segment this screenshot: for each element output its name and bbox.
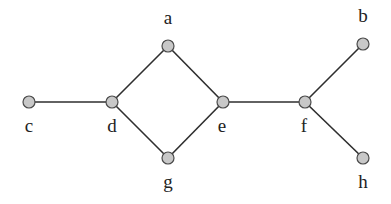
labels-layer: abcdefgh — [25, 5, 368, 192]
nodes-layer — [23, 38, 369, 164]
edge-f-h — [305, 102, 363, 158]
node-label-f: f — [301, 115, 308, 136]
node-g — [162, 152, 174, 164]
node-label-e: e — [218, 115, 226, 136]
edges-layer — [29, 44, 363, 158]
node-label-a: a — [164, 7, 173, 28]
node-d — [106, 96, 118, 108]
node-b — [357, 38, 369, 50]
edge-f-b — [305, 44, 363, 102]
graph-svg: abcdefgh — [0, 0, 391, 204]
node-label-b: b — [358, 5, 368, 26]
node-label-c: c — [25, 115, 33, 136]
node-f — [299, 96, 311, 108]
node-label-g: g — [163, 171, 173, 192]
node-a — [162, 40, 174, 52]
edge-d-a — [112, 46, 168, 102]
node-h — [357, 152, 369, 164]
node-c — [23, 96, 35, 108]
node-label-d: d — [107, 115, 117, 136]
node-label-h: h — [358, 171, 368, 192]
edge-g-e — [168, 102, 223, 158]
edge-a-e — [168, 46, 223, 102]
node-e — [217, 96, 229, 108]
graph-diagram: abcdefgh — [0, 0, 391, 204]
edge-d-g — [112, 102, 168, 158]
